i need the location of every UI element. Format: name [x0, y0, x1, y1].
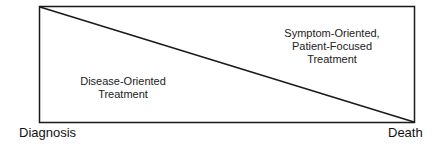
label-line: Disease-Oriented	[68, 75, 178, 88]
label-line: Patient-Focused	[272, 40, 392, 53]
symptom-oriented-label: Symptom-Oriented, Patient-Focused Treatm…	[272, 27, 392, 66]
label-line: Symptom-Oriented,	[272, 27, 392, 40]
death-label: Death	[388, 125, 423, 140]
label-line: Treatment	[272, 53, 392, 66]
label-line: Treatment	[68, 88, 178, 101]
diagnosis-label: Diagnosis	[19, 125, 76, 140]
disease-oriented-label: Disease-Oriented Treatment	[68, 75, 178, 101]
